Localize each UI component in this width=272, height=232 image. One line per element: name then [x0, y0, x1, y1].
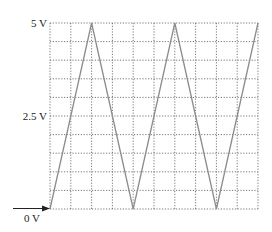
- ground-arrow: [13, 206, 50, 212]
- oscilloscope-chart: 5 V 2.5 V 0 V: [0, 0, 272, 232]
- arrow-head-icon: [42, 206, 50, 212]
- y-label-bottom: 0 V: [24, 212, 40, 224]
- y-label-top: 5 V: [31, 17, 47, 29]
- y-label-mid: 2.5 V: [23, 110, 47, 122]
